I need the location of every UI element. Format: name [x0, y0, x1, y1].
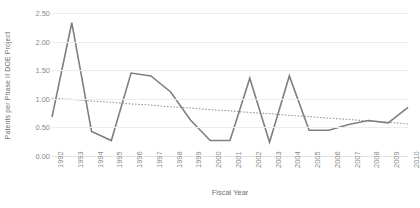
gridline: [52, 99, 408, 100]
x-axis-tick-label: 1992: [56, 158, 65, 168]
gridline: [52, 42, 408, 43]
y-axis-tick-label: 2.50: [16, 9, 50, 18]
plot-area: [52, 13, 408, 156]
x-axis-tick-label: 2010: [412, 158, 420, 168]
x-axis-tick-label: 1999: [194, 158, 203, 168]
x-axis-tick-label: 1994: [96, 158, 105, 168]
x-axis-tick-label: 2009: [392, 158, 401, 168]
x-axis-tick-label: 2002: [254, 158, 263, 168]
x-axis-tick-label: 1997: [155, 158, 164, 168]
gridline: [52, 13, 408, 14]
trendline-series: [52, 98, 408, 124]
x-axis-tick-label: 2004: [293, 158, 302, 168]
x-axis-title: Fiscal Year: [52, 188, 408, 197]
chart-container: Patents per Phase II DOE Project 0.000.5…: [0, 0, 420, 208]
y-axis-tick-label: 0.50: [16, 123, 50, 132]
y-axis-tick-label: 0.00: [16, 152, 50, 161]
x-axis-tick-label: 2001: [234, 158, 243, 168]
x-axis-tick-label: 1995: [115, 158, 124, 168]
x-axis-tick-label: 1996: [135, 158, 144, 168]
x-axis-tick-label: 2003: [274, 158, 283, 168]
x-axis-tick-label: 2000: [214, 158, 223, 168]
y-axis-tick-label: 2.00: [16, 37, 50, 46]
y-axis-tick-label: 1.00: [16, 94, 50, 103]
x-axis-tick-label: 2008: [372, 158, 381, 168]
series-svg: [52, 13, 408, 156]
x-axis-tick-label: 2006: [333, 158, 342, 168]
x-axis-tick-label: 2005: [313, 158, 322, 168]
y-axis-title: Patents per Phase II DOE Project: [5, 31, 12, 138]
x-axis-tick-label: 1998: [175, 158, 184, 168]
x-axis-tick-label: 1993: [76, 158, 85, 168]
gridline: [52, 127, 408, 128]
y-axis-tick-label: 1.50: [16, 66, 50, 75]
x-axis-tick-label: 2007: [353, 158, 362, 168]
gridline: [52, 70, 408, 71]
y-axis-title-wrapper: Patents per Phase II DOE Project: [0, 0, 16, 170]
